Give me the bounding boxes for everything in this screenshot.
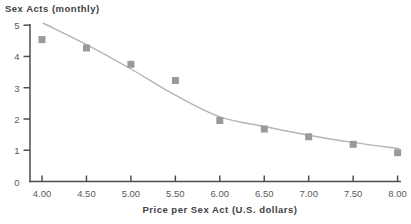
data-point-marker	[172, 77, 179, 84]
data-point-marker	[305, 133, 312, 140]
x-tick-label: 4.50	[77, 188, 96, 199]
plot-area: 0123454.004.505.005.506.006.507.007.508.…	[0, 0, 411, 224]
data-point-marker	[216, 117, 223, 124]
data-point-marker	[394, 149, 401, 156]
data-point-marker	[350, 141, 357, 148]
trend-curve	[43, 23, 400, 149]
x-tick-label: 4.00	[33, 188, 52, 199]
x-tick-label: 6.00	[211, 188, 230, 199]
data-point-marker	[127, 61, 134, 68]
x-tick-label: 8.00	[388, 188, 407, 199]
y-tick-label: 5	[14, 20, 19, 31]
x-tick-label: 7.50	[344, 188, 363, 199]
y-tick-label: 1	[14, 145, 19, 156]
chart-figure: Sex Acts (monthly) 0123454.004.505.005.5…	[0, 0, 411, 224]
data-point-marker	[39, 36, 46, 43]
y-tick-label: 3	[14, 83, 19, 94]
x-tick-label: 6.50	[255, 188, 274, 199]
y-tick-label: 0	[14, 177, 19, 188]
x-axis-title: Price per Sex Act (U.S. dollars)	[42, 204, 398, 215]
y-tick-label: 4	[14, 51, 19, 62]
data-point-marker	[83, 45, 90, 52]
x-tick-label: 5.00	[122, 188, 141, 199]
x-tick-label: 7.00	[299, 188, 318, 199]
y-tick-label: 2	[14, 114, 19, 125]
y-axis-title: Sex Acts (monthly)	[5, 3, 100, 14]
x-tick-label: 5.50	[166, 188, 185, 199]
data-point-marker	[261, 126, 268, 133]
